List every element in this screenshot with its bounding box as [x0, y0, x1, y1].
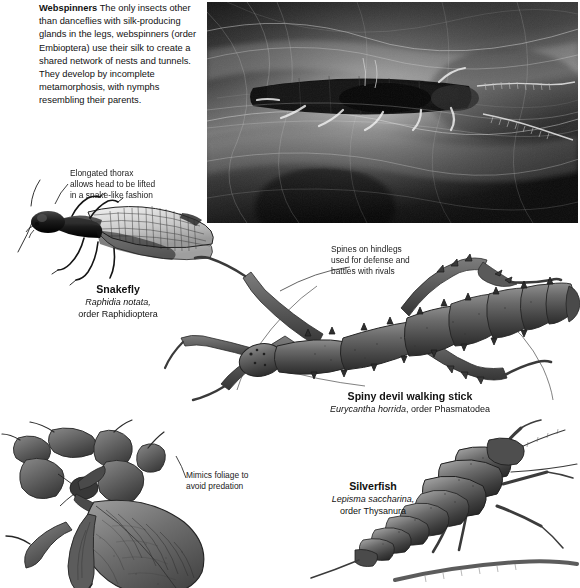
caption-order: , order Phasmatodea	[406, 404, 490, 414]
caption-common-name: Snakefly	[44, 282, 192, 296]
annotation-line: used for defense and	[331, 255, 451, 266]
leaf-insect-illustration	[0, 418, 286, 588]
caption-common-name: Spiny devil walking stick	[295, 389, 525, 403]
intro-heading: Webspinners	[39, 3, 97, 13]
annotation-mimics-foliage: Mimics foliage to avoid predation	[186, 470, 296, 492]
caption-walking-stick: Spiny devil walking stick Eurycantha hor…	[295, 389, 525, 415]
intro-body: The only insects other than danceflies w…	[39, 3, 196, 105]
annotation-spines-hindlegs: Spines on hindlegs used for defense and …	[331, 244, 451, 277]
caption-species-name: Raphidia notata,	[44, 296, 192, 308]
caption-species-name: Lepisma saccharina,	[298, 493, 448, 505]
annotation-elongated-thorax: Elongated thorax allows head to be lifte…	[70, 168, 200, 201]
caption-species-line: Eurycantha horrida, order Phasmatodea	[295, 403, 525, 415]
caption-silverfish: Silverfish Lepisma saccharina, order Thy…	[298, 479, 448, 517]
annotation-line: Mimics foliage to	[186, 470, 296, 481]
intro-paragraph: Webspinners The only insects other than …	[39, 2, 207, 108]
caption-species-name: Eurycantha horrida	[330, 404, 406, 414]
caption-order: order Raphidioptera	[44, 308, 192, 320]
caption-snakefly: Snakefly Raphidia notata, order Raphidio…	[44, 282, 192, 320]
caption-order: order Thysanura	[298, 505, 448, 517]
caption-common-name: Silverfish	[298, 479, 448, 493]
webspinner-photograph	[207, 2, 578, 223]
annotation-line: allows head to be lifted	[70, 179, 200, 190]
annotation-line: Elongated thorax	[70, 168, 200, 179]
annotation-line: avoid predation	[186, 481, 296, 492]
annotation-line: Spines on hindlegs	[331, 244, 451, 255]
annotation-line: in a snake-like fashion	[70, 190, 200, 201]
annotation-line: battles with rivals	[331, 266, 451, 277]
